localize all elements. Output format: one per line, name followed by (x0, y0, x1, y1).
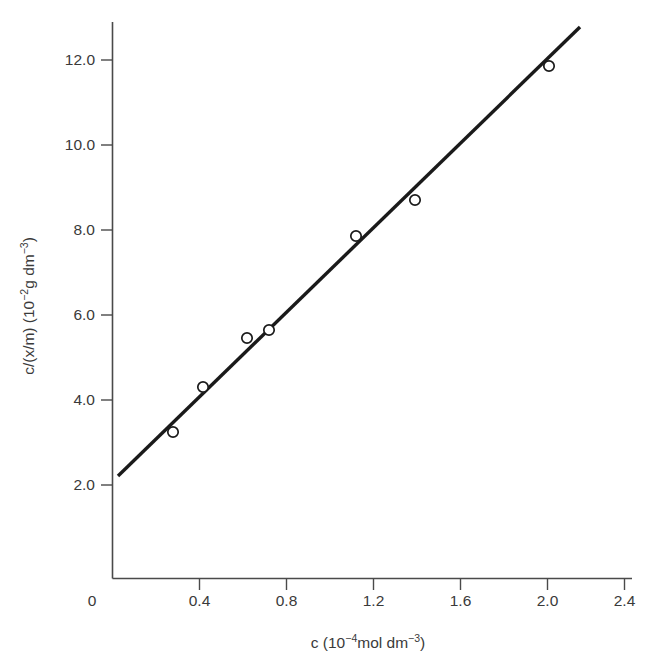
data-point (544, 61, 554, 71)
axes-group (113, 22, 633, 579)
x-axis-title-mid: mol dm (357, 634, 408, 651)
y-tick-label-2: 2.0 (73, 476, 95, 493)
x-axis-title: c (10−4mol dm−3) (311, 632, 425, 651)
y-axis-title-suffix: ) (20, 237, 37, 242)
x-tick-label-2-0: 2.0 (537, 592, 559, 609)
data-point (198, 382, 208, 392)
x-axis-title-exp1: −4 (345, 632, 357, 644)
x-axis-title-suffix: ) (420, 634, 425, 651)
data-point (264, 325, 274, 335)
y-tick-label-4: 4.0 (73, 391, 95, 408)
y-axis-title-exp2: −3 (18, 242, 30, 254)
y-axis-ticks (101, 60, 113, 485)
best-fit-line (118, 27, 580, 476)
chart-figure: 12.0 10.0 8.0 6.0 4.0 2.0 0 0.4 0.8 1.2 … (0, 0, 662, 662)
data-point (351, 231, 361, 241)
x-tick-label-0: 0 (88, 592, 97, 609)
data-point (242, 333, 252, 343)
x-axis-title-exp2: −3 (408, 632, 420, 644)
y-tick-label-10: 10.0 (65, 136, 96, 153)
chart-canvas: 12.0 10.0 8.0 6.0 4.0 2.0 0 0.4 0.8 1.2 … (0, 0, 662, 662)
x-tick-label-1-6: 1.6 (450, 592, 472, 609)
x-tick-label-0-8: 0.8 (276, 592, 298, 609)
y-tick-label-8: 8.0 (73, 221, 95, 238)
y-axis-title: c/(x/m) (10−2g dm−3) (18, 237, 37, 375)
y-tick-label-12: 12.0 (65, 51, 96, 68)
y-axis-tick-labels: 12.0 10.0 8.0 6.0 4.0 2.0 (65, 51, 96, 493)
y-axis-title-exp1: −2 (18, 289, 30, 301)
x-axis-title-prefix: c (10 (311, 634, 346, 651)
data-point (410, 195, 420, 205)
x-tick-label-2-4: 2.4 (614, 592, 636, 609)
y-axis-title-mid: g dm (20, 254, 37, 288)
y-axis-title-prefix: c/(x/m) (10 (20, 300, 37, 374)
data-point (168, 427, 178, 437)
data-points-group (168, 61, 554, 437)
x-axis-ticks (200, 579, 625, 591)
y-tick-label-6: 6.0 (73, 306, 95, 323)
x-tick-label-0-4: 0.4 (189, 592, 211, 609)
x-tick-label-1-2: 1.2 (363, 592, 385, 609)
x-axis-tick-labels: 0 0.4 0.8 1.2 1.6 2.0 2.4 (88, 592, 636, 609)
